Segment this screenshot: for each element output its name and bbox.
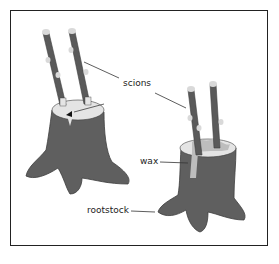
label-scions: scions <box>123 79 151 88</box>
label-wax: wax <box>140 157 158 166</box>
rootstock-leader <box>131 211 155 212</box>
left-rootstock <box>26 100 129 194</box>
scions-leader-right <box>155 93 186 108</box>
scions-leader-left <box>84 62 119 78</box>
label-rootstock: rootstock <box>87 206 129 215</box>
left-scions <box>42 28 91 106</box>
grafting-illustration <box>0 0 279 264</box>
